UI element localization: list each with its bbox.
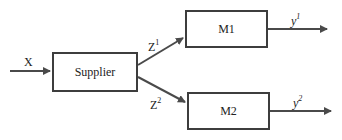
y1-label: y1 bbox=[291, 14, 300, 27]
input-label: X bbox=[24, 56, 33, 68]
z2-arrow bbox=[138, 77, 185, 102]
m2-box: M2 bbox=[187, 92, 270, 130]
z1-label: Z1 bbox=[148, 40, 159, 53]
m1-label: M1 bbox=[218, 22, 235, 37]
supplier-box: Supplier bbox=[52, 52, 138, 92]
supplier-label: Supplier bbox=[75, 65, 116, 80]
supply-chain-diagram: X Supplier M1 M2 Z1 Z2 y1 y2 bbox=[0, 0, 342, 140]
z1-arrow bbox=[138, 38, 183, 65]
m2-label: M2 bbox=[220, 104, 237, 119]
m1-box: M1 bbox=[185, 10, 268, 48]
y2-label: y2 bbox=[293, 96, 302, 109]
z2-label: Z2 bbox=[150, 98, 161, 111]
